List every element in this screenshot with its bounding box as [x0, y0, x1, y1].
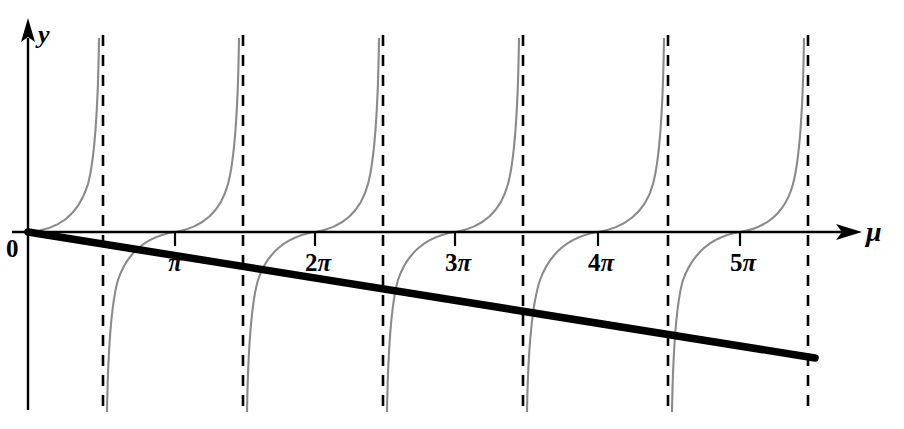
pi-glyph: π	[457, 249, 471, 276]
tangent-branch	[387, 38, 519, 412]
tangent-branch	[527, 38, 664, 412]
asymptote-group	[103, 35, 808, 412]
tick-coefficient: 4	[588, 249, 601, 276]
x-axis-label: μ	[866, 218, 882, 246]
tangent-branch	[247, 38, 379, 412]
pi-glyph: π	[742, 249, 756, 276]
origin-label: 0	[6, 236, 19, 261]
y-axis-label: y	[38, 22, 50, 48]
tick-label-5pi: 5π	[730, 250, 756, 275]
tick-coefficient: 3	[445, 249, 458, 276]
tick-label-3pi: 3π	[445, 250, 471, 275]
tangent-branch	[28, 38, 99, 232]
tick-mark-group	[175, 232, 740, 246]
tangent-curve-group	[28, 38, 804, 412]
tick-coefficient: 5	[730, 249, 743, 276]
tangent-branch	[107, 38, 239, 412]
tick-label-4pi: 4π	[588, 250, 614, 275]
axis-group	[12, 18, 862, 410]
pi-glyph: π	[168, 249, 182, 276]
linear-series-line	[28, 232, 815, 358]
tick-coefficient: 2	[305, 249, 318, 276]
pi-glyph: π	[600, 249, 614, 276]
pi-glyph: π	[317, 249, 331, 276]
plot-canvas	[0, 0, 904, 429]
tick-label-2pi: 2π	[305, 250, 331, 275]
tangent-line-intersection-figure: 0 y μ π 2π 3π 4π 5π	[0, 0, 904, 429]
tick-label-pi: π	[168, 250, 182, 275]
